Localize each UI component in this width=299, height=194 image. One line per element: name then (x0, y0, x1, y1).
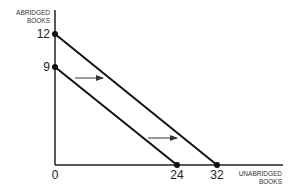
y-tick-12: 12 (37, 27, 51, 41)
budget-line-chart: ABRIDGED BOOKS UNABRIDGED BOOKS 12 9 0 2… (0, 0, 299, 194)
budget-line-initial (55, 67, 177, 165)
x-tick-24: 24 (170, 168, 184, 182)
budget-line-shifted (55, 34, 217, 165)
point-y-9 (52, 64, 58, 70)
x-axis-label-line1: UNABRIDGED (239, 170, 283, 177)
point-y-12 (52, 31, 58, 37)
y-tick-9: 9 (43, 60, 50, 74)
y-axis-label-line1: ABRIDGED (16, 9, 50, 16)
x-tick-0: 0 (52, 168, 59, 182)
x-axis-label-line2: BOOKS (259, 178, 283, 185)
y-axis-label-line2: BOOKS (27, 17, 51, 24)
x-tick-32: 32 (210, 168, 224, 182)
